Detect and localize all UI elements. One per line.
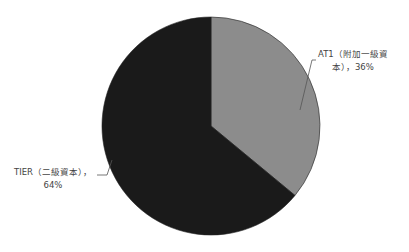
pie-chart: [0, 0, 409, 252]
tier-data-label: TIER（二級資本）， 64%: [14, 166, 92, 192]
at1-data-label: AT1（附加一級資 本），36%: [318, 48, 388, 74]
